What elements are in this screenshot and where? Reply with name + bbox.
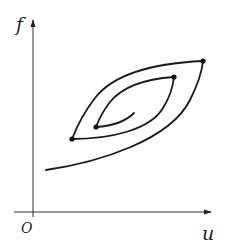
left-turning-point: [69, 136, 74, 141]
outer-turning-point: [200, 58, 205, 63]
loading-curve: [46, 61, 203, 170]
inner-turning-point: [171, 74, 176, 79]
origin-label: O: [21, 220, 33, 236]
hysteresis-diagram: f u O: [0, 0, 225, 249]
y-axis-label: f: [14, 13, 26, 35]
innermost-turning-point: [93, 124, 98, 129]
inner-unloading-arc: [96, 77, 174, 127]
x-axis-label: u: [202, 222, 214, 244]
